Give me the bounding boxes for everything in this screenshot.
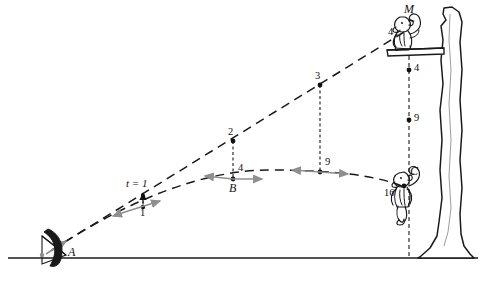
label-point-b: B bbox=[229, 182, 236, 194]
label-time-marker: t = 1 bbox=[126, 178, 147, 189]
label-trajectory-16: 16 bbox=[384, 188, 395, 199]
projectile-path bbox=[52, 170, 404, 250]
fall-point-4 bbox=[407, 68, 412, 73]
label-sight-2: 2 bbox=[228, 127, 233, 138]
sight-point-3 bbox=[318, 83, 323, 88]
line-of-sight bbox=[52, 32, 404, 250]
monkey-m bbox=[393, 14, 421, 50]
label-trajectory-9: 9 bbox=[325, 157, 330, 168]
fall-point-9 bbox=[407, 118, 412, 123]
tree-trunk bbox=[418, 7, 474, 258]
bow-and-arrow bbox=[40, 229, 66, 266]
label-trajectory-1: 1 bbox=[140, 208, 145, 219]
label-trajectory-4: 4 bbox=[238, 163, 243, 174]
label-sight-4: 4 bbox=[388, 27, 393, 38]
label-fall-9: 9 bbox=[414, 113, 419, 124]
velocity-arrows bbox=[46, 170, 348, 254]
physics-diagram-figure: A t = 1 1 2 4 B 3 9 4 M 4 9 C 16 bbox=[0, 0, 485, 284]
diagram-canvas bbox=[0, 0, 485, 284]
label-point-m: M bbox=[404, 3, 414, 15]
label-sight-3: 3 bbox=[315, 71, 320, 82]
label-fall-4: 4 bbox=[414, 63, 419, 74]
label-point-a: A bbox=[68, 246, 75, 258]
sight-point-2 bbox=[231, 139, 236, 144]
label-point-c: C bbox=[410, 165, 418, 177]
